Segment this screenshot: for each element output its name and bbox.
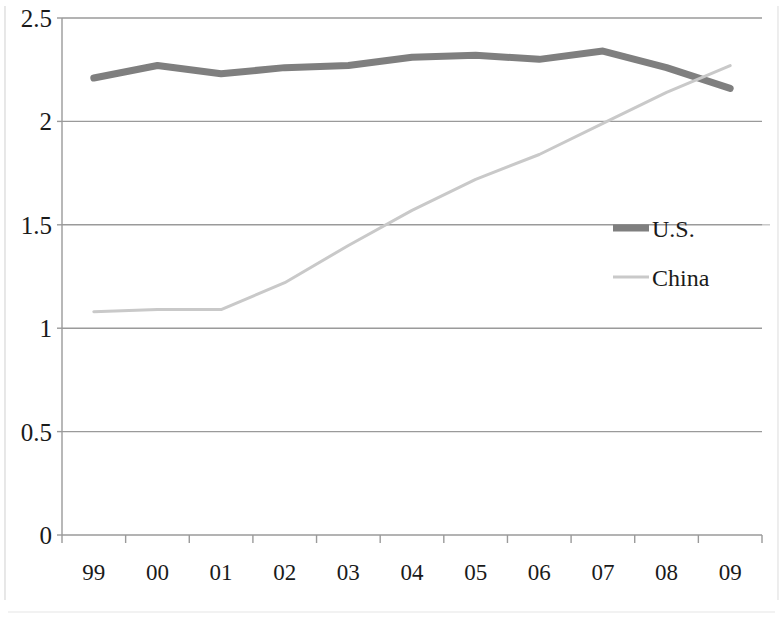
y-tick-label-2: 2 (40, 108, 53, 135)
line-chart: 00.511.522.5 9900010203040506070809 U.S.… (0, 0, 783, 620)
y-tick-label-1: 1 (40, 315, 53, 342)
x-tick-label-09: 09 (719, 560, 742, 585)
legend-label-china: China (652, 265, 710, 291)
y-tick-label-1_5: 1.5 (21, 212, 52, 239)
y-tick-label-0_5: 0.5 (21, 419, 52, 446)
x-tick-label-08: 08 (655, 560, 678, 585)
legend-label-us: U.S. (652, 216, 695, 242)
x-tick-label-00: 00 (146, 560, 169, 585)
x-tick-label-99: 99 (82, 560, 105, 585)
y-tick-label-2_5: 2.5 (21, 5, 52, 32)
x-tick-label-06: 06 (528, 560, 551, 585)
x-tick-label-05: 05 (464, 560, 487, 585)
chart-container: 00.511.522.5 9900010203040506070809 U.S.… (0, 0, 783, 620)
x-tick-label-02: 02 (273, 560, 296, 585)
x-tick-label-01: 01 (210, 560, 233, 585)
x-tick-label-04: 04 (401, 560, 425, 585)
y-tick-label-0: 0 (40, 522, 53, 549)
x-tick-label-03: 03 (337, 560, 360, 585)
x-tick-label-07: 07 (591, 560, 614, 585)
